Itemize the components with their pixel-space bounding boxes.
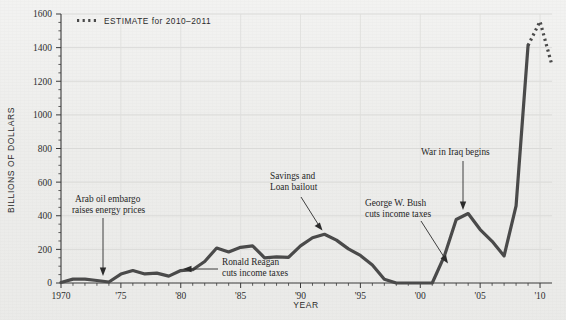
annotation-george-w-bush-line-0: George W. Bush [365,198,426,208]
x-tick-label: '75 [115,291,126,301]
x-tick-label: '90 [295,291,306,301]
x-tick-label: 1970 [52,291,71,301]
y-tick-label: 0 [47,278,52,288]
y-tick-label: 1200 [33,77,52,87]
annotation-george-w-bush-leader [421,221,444,257]
y-tick-label: 200 [38,245,53,255]
chart-page: 02004006008001000120014001600 1970'75'80… [0,0,566,320]
y-tick-label: 1600 [33,9,52,19]
x-tick-label: '85 [235,291,246,301]
x-tick-label: '00 [415,291,426,301]
annotation-ronald-reagan-line-0: Ronald Reagan [222,257,279,267]
x-tick-label: '05 [475,291,486,301]
annotation-war-in-iraq-arrowhead [460,202,466,211]
legend: ESTIMATE for 2010–2011 [77,16,211,26]
y-tick-label: 800 [38,144,53,154]
annotation-ronald-reagan-line-1: cuts income taxes [222,268,288,278]
annotation-george-w-bush-line-1: cuts income taxes [365,209,431,219]
annotation-savings-and-loan-line-1: Loan bailout [270,182,318,192]
x-axis-title: YEAR [293,300,319,310]
x-tick-label: '10 [534,291,545,301]
annotation-arab-oil-embargo-line-0: Arab oil embargo [75,194,141,204]
x-axis-tick-labels: 1970'75'80'85'90'95'00'05'10 [52,291,546,301]
y-tick-label: 400 [38,211,53,221]
budget-deficit-chart: 02004006008001000120014001600 1970'75'80… [0,0,566,320]
annotation-savings-and-loan: Savings and Loan bailout [270,171,323,231]
y-tick-label: 600 [38,178,53,188]
annotation-arab-oil-embargo: Arab oil embargo raises energy prices [72,194,146,276]
y-tick-label: 1000 [33,110,52,120]
annotation-savings-and-loan-leader [301,197,318,224]
y-axis-tick-labels: 02004006008001000120014001600 [33,9,52,288]
y-axis-ticks [56,14,61,283]
annotation-savings-and-loan-line-0: Savings and [270,171,316,181]
annotation-george-w-bush: George W. Bush cuts income taxes [365,198,448,264]
annotation-war-in-iraq: War in Iraq begins [421,147,490,210]
x-tick-label: '80 [175,291,186,301]
x-tick-label: '95 [355,291,366,301]
annotation-ronald-reagan: Ronald Reagan cuts income taxes [183,257,288,278]
annotation-arab-oil-embargo-arrowhead [100,268,106,277]
annotation-savings-and-loan-arrowhead [315,223,323,231]
annotation-war-in-iraq-line-0: War in Iraq begins [421,147,490,157]
y-axis-title: BILLIONS OF DOLLARS [6,107,16,213]
y-tick-label: 1400 [33,43,52,53]
annotation-arab-oil-embargo-line-1: raises energy prices [72,205,146,215]
legend-label: ESTIMATE for 2010–2011 [104,16,211,26]
